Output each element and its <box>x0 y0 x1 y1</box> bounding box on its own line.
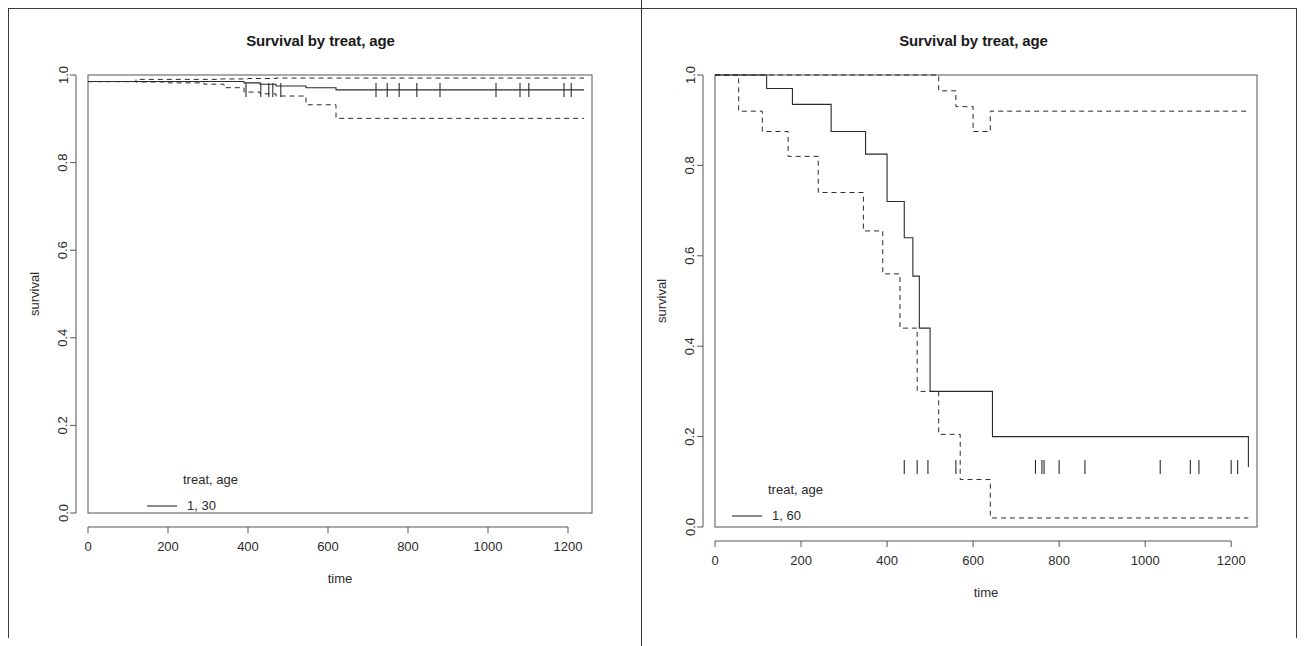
x-axis-tick-label: 600 <box>317 539 339 554</box>
y-axis-tick-label: 0.0 <box>56 504 71 522</box>
y-axis-tick-label: 1.0 <box>683 66 698 84</box>
x-axis-tick-label: 1200 <box>1217 553 1246 568</box>
y-axis-tick-label: 0.8 <box>683 156 698 174</box>
plot-box <box>715 75 1257 527</box>
legend-entry-label: 1, 60 <box>772 508 801 523</box>
x-axis-tick-label: 400 <box>237 539 259 554</box>
x-axis-tick-label: 0 <box>711 553 718 568</box>
x-axis-tick-label: 1000 <box>1131 553 1160 568</box>
x-axis-title: time <box>974 585 999 600</box>
x-axis-tick-label: 200 <box>790 553 812 568</box>
x-axis-tick-label: 800 <box>1048 553 1070 568</box>
y-axis-tick-label: 0.4 <box>56 329 71 347</box>
x-axis-tick-label: 1000 <box>474 539 503 554</box>
x-axis-tick-label: 200 <box>157 539 179 554</box>
y-axis-title: survival <box>27 272 42 316</box>
confidence-band-line <box>88 82 584 119</box>
plot-title-left: Survival by treat, age <box>0 32 641 49</box>
legend-title: treat, age <box>183 472 238 487</box>
legend-entry-label: 1, 30 <box>187 498 216 513</box>
x-axis-tick-label: 600 <box>962 553 984 568</box>
x-axis-tick-label: 400 <box>876 553 898 568</box>
legend-title: treat, age <box>768 482 823 497</box>
y-axis-tick-label: 1.0 <box>56 66 71 84</box>
y-axis-tick-label: 0.2 <box>56 416 71 434</box>
y-axis-tick-label: 0.0 <box>683 518 698 536</box>
x-axis-tick-label: 0 <box>84 539 91 554</box>
plot-box <box>88 75 592 513</box>
confidence-band-line <box>715 75 1248 518</box>
x-axis-title: time <box>328 571 353 586</box>
y-axis-title: survival <box>654 279 669 323</box>
y-axis-tick-label: 0.8 <box>56 154 71 172</box>
survival-curve-line <box>88 82 584 90</box>
y-axis-tick-label: 0.2 <box>683 428 698 446</box>
survival-plot-panel-left: Survival by treat, age 0.00.20.40.60.81.… <box>0 0 641 646</box>
confidence-band-line <box>715 75 1248 132</box>
plot-title-right: Survival by treat, age <box>642 32 1305 49</box>
y-axis-tick-label: 0.4 <box>683 337 698 355</box>
survival-plot-panel-right: Survival by treat, age 0.00.20.40.60.81.… <box>642 0 1305 646</box>
y-axis-tick-label: 0.6 <box>56 241 71 259</box>
y-axis-tick-label: 0.6 <box>683 247 698 265</box>
survival-chart-left: 0.00.20.40.60.81.0survival02004006008001… <box>0 0 641 646</box>
x-axis-tick-label: 1200 <box>554 539 583 554</box>
survival-chart-right: 0.00.20.40.60.81.0survival02004006008001… <box>642 0 1305 646</box>
x-axis-tick-label: 800 <box>397 539 419 554</box>
survival-curve-line <box>715 75 1248 467</box>
page-root: Survival by treat, age 0.00.20.40.60.81.… <box>0 0 1305 646</box>
